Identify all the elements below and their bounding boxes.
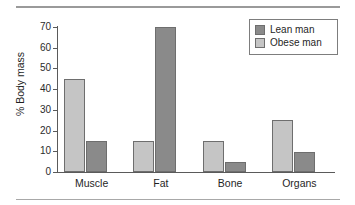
y-axis-tick-label: 20 [0,126,51,136]
x-axis-label-bone: Bone [196,177,265,189]
y-axis-tick-label: 0 [0,167,51,177]
y-axis-tick-label: 60 [0,43,51,53]
legend-swatch-icon-lean-man [255,25,265,35]
bar-bone-lean-man [225,162,246,172]
top-divider-rule [16,6,340,8]
x-axis-line [57,172,335,173]
bar-muscle-obese-man [64,79,85,172]
legend-label-obese-man: Obese man [270,37,322,48]
y-axis-tick-label: 70 [0,22,51,32]
legend-item-obese-man[interactable]: Obese man [255,37,333,48]
y-axis-tick-label: 30 [0,105,51,115]
bar-organs-obese-man [272,120,293,172]
y-axis-tick-label: 50 [0,63,51,73]
bar-muscle-lean-man [86,141,107,172]
bar-fat-lean-man [155,27,176,172]
y-axis-tick-label: 40 [0,84,51,94]
figure-bar-chart: % Body mass 010203040506070 MuscleFatBon… [0,0,355,205]
legend-item-lean-man[interactable]: Lean man [255,24,333,35]
legend-swatch-icon-obese-man [255,38,265,48]
x-axis-label-muscle: Muscle [57,177,126,189]
chart-legend: Lean man Obese man [249,19,338,55]
bar-bone-obese-man [203,141,224,172]
bar-fat-obese-man [133,141,154,172]
bottom-divider-rule [16,199,340,200]
y-axis-tick-label: 10 [0,146,51,156]
y-axis-tick [53,172,57,173]
bar-organs-lean-man [294,152,315,172]
x-axis-label-fat: Fat [126,177,195,189]
x-axis-label-organs: Organs [265,177,334,189]
legend-label-lean-man: Lean man [270,24,314,35]
